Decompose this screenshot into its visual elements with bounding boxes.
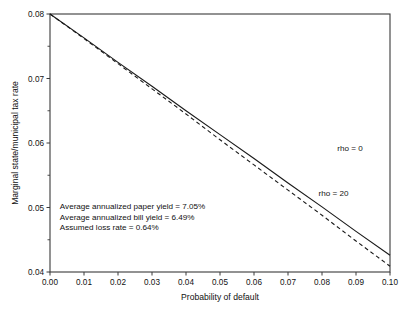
x-tick-label-8: 0.08 — [314, 278, 330, 287]
y-tick-label-3: 0.05 — [28, 204, 44, 213]
series-label-1: rho = 20 — [319, 189, 349, 198]
x-tick-label-5: 0.05 — [212, 278, 228, 287]
series-label-0: rho = 0 — [337, 144, 363, 153]
y-tick-label-1: 0.07 — [28, 75, 44, 84]
y-tick-label-0: 0.08 — [28, 10, 44, 19]
x-tick-label-10: 0.10 — [382, 278, 398, 287]
chart-background — [0, 0, 418, 319]
y-tick-label-4: 0.04 — [28, 268, 44, 277]
x-tick-label-7: 0.07 — [280, 278, 296, 287]
x-tick-label-4: 0.04 — [178, 278, 194, 287]
annotation-line-0: Average annualized paper yield = 7.05% — [60, 202, 205, 211]
x-tick-label-6: 0.06 — [246, 278, 262, 287]
annotation-line-1: Average annualized bill yield = 6.49% — [60, 213, 195, 222]
x-axis-title: Probability of default — [181, 292, 259, 302]
y-tick-label-2: 0.06 — [28, 139, 44, 148]
x-tick-label-0: 0.00 — [42, 278, 58, 287]
chart-canvas: 0.000.010.020.030.040.050.060.070.080.09… — [0, 0, 418, 319]
annotation-line-2: Assumed loss rate = 0.64% — [60, 223, 159, 232]
x-tick-label-1: 0.01 — [76, 278, 92, 287]
x-tick-label-9: 0.09 — [348, 278, 364, 287]
y-axis-title: Marginal state/municipal tax rate — [10, 81, 20, 205]
x-tick-label-3: 0.03 — [144, 278, 160, 287]
x-tick-label-2: 0.02 — [110, 278, 126, 287]
chart-figure: 0.000.010.020.030.040.050.060.070.080.09… — [0, 0, 418, 319]
